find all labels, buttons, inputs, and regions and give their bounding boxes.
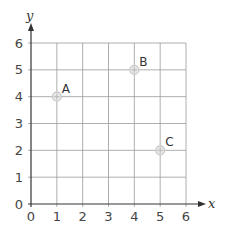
tick-labels: 01234560123456: [15, 36, 190, 225]
y-tick-label: 4: [15, 89, 23, 104]
y-axis-arrow-icon: [28, 23, 34, 31]
x-tick-label: 0: [27, 209, 35, 224]
y-tick-label: 3: [15, 116, 23, 131]
point-b: B: [130, 55, 148, 75]
point-a: A: [52, 82, 70, 102]
grid-lines: [28, 43, 186, 207]
x-tick-label: 4: [130, 209, 138, 224]
coordinate-plot: 01234560123456 ABC x y: [0, 0, 226, 232]
y-tick-label: 1: [15, 170, 23, 185]
axes: [28, 23, 206, 207]
point-label: C: [165, 135, 173, 149]
x-tick-label: 5: [156, 209, 164, 224]
x-tick-label: 2: [79, 209, 87, 224]
x-axis-arrow-icon: [198, 201, 206, 207]
point-label: B: [139, 55, 147, 69]
point-label: A: [62, 82, 71, 96]
y-tick-label: 6: [15, 36, 23, 51]
x-tick-label: 6: [182, 209, 190, 224]
x-tick-label: 3: [104, 209, 112, 224]
y-axis-label: y: [25, 8, 34, 23]
x-tick-label: 1: [53, 209, 61, 224]
y-tick-label: 0: [15, 197, 23, 212]
y-tick-label: 2: [15, 143, 23, 158]
point-c: C: [156, 135, 174, 155]
y-tick-label: 5: [15, 62, 23, 77]
x-axis-label: x: [208, 196, 216, 211]
